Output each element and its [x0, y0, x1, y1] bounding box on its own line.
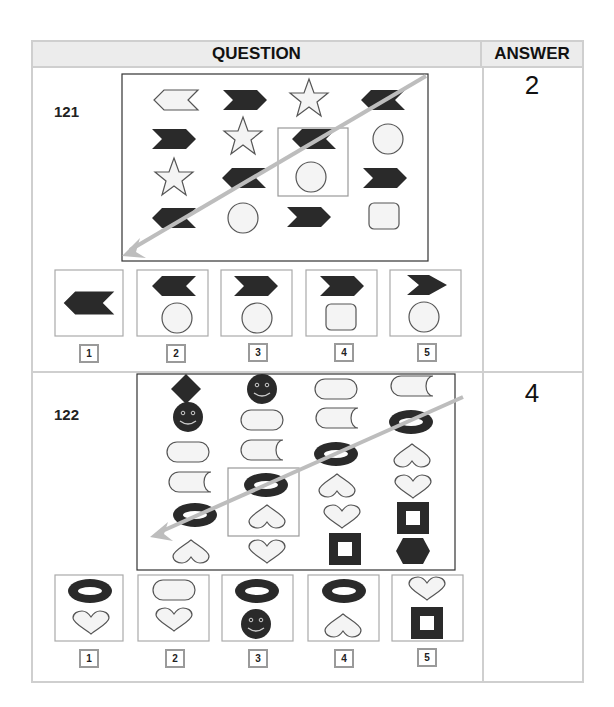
puzzle-122-grid [137, 374, 463, 570]
option-label-121-2[interactable]: 2 [166, 344, 186, 363]
option-label-122-4[interactable]: 4 [334, 649, 354, 668]
puzzle-121-options[interactable] [55, 270, 461, 336]
option-label-121-1[interactable]: 1 [79, 344, 99, 363]
puzzle-121-grid [122, 74, 428, 261]
option-label-122-5[interactable]: 5 [417, 648, 437, 667]
option-label-121-3[interactable]: 3 [248, 343, 268, 362]
option-label-122-3[interactable]: 3 [248, 649, 268, 668]
option-label-121-4[interactable]: 4 [334, 343, 354, 362]
option-label-122-2[interactable]: 2 [165, 649, 185, 668]
option-label-121-5[interactable]: 5 [417, 343, 437, 362]
puzzle-122-options[interactable] [55, 575, 463, 641]
option-label-122-1[interactable]: 1 [79, 649, 99, 668]
